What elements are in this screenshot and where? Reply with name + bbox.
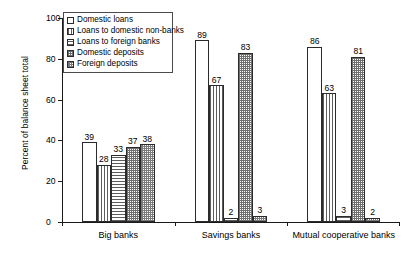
bar: 83 — [238, 53, 253, 222]
bar: 63 — [322, 93, 337, 222]
legend-swatch-icon — [67, 39, 74, 46]
bar-value-label: 33 — [114, 144, 124, 154]
bar: 3 — [336, 216, 351, 222]
bar: 37 — [126, 147, 141, 222]
bar-value-label: 28 — [99, 154, 109, 164]
legend-item-label: Foreign deposits — [77, 60, 138, 68]
bar: 89 — [195, 40, 210, 222]
x-axis-tick — [62, 222, 63, 226]
bar-value-label: 67 — [212, 75, 222, 85]
y-tick-mark — [58, 100, 62, 101]
x-axis-tick — [175, 222, 176, 226]
bar-value-label: 86 — [310, 36, 320, 46]
legend-item[interactable]: Domestic deposits — [67, 48, 169, 59]
bar: 81 — [351, 57, 366, 222]
y-tick-label: 40 — [46, 135, 54, 145]
legend-item[interactable]: Loans to domestic non-banks — [67, 26, 169, 37]
bar-value-label: 89 — [197, 30, 207, 40]
y-tick-label: 20 — [46, 176, 54, 186]
y-axis-title: Percent of balance sheet total — [20, 13, 30, 213]
y-tick-label: 100 — [46, 13, 54, 23]
bar-chart: Percent of balance sheet total 020406080… — [0, 0, 420, 259]
y-tick-label: 60 — [46, 95, 54, 105]
legend-swatch-icon — [67, 50, 74, 57]
legend-swatch-icon — [67, 61, 74, 68]
bar-value-label: 3 — [258, 205, 263, 215]
y-tick-mark — [58, 181, 62, 182]
legend-item-label: Loans to foreign banks — [77, 38, 160, 46]
legend-item[interactable]: Loans to foreign banks — [67, 37, 169, 48]
bar: 86 — [307, 47, 322, 222]
bar-value-label: 83 — [241, 42, 251, 52]
x-axis-line — [62, 222, 400, 223]
y-tick-mark — [58, 59, 62, 60]
y-tick-label: 0 — [46, 217, 54, 227]
legend-item-label: Domestic deposits — [77, 49, 144, 57]
legend-swatch-icon — [67, 28, 74, 35]
bar: 2 — [365, 218, 380, 222]
bar: 2 — [224, 218, 239, 222]
x-group-label: Mutual cooperative banks — [292, 230, 395, 240]
x-group-label: Big banks — [99, 230, 139, 240]
bar-value-label: 63 — [324, 83, 334, 93]
legend-item-label: Domestic loans — [77, 16, 133, 24]
bar-value-label: 2 — [370, 207, 375, 217]
bar: 3 — [253, 216, 268, 222]
legend: Domestic loansLoans to domestic non-bank… — [63, 12, 173, 73]
legend-item[interactable]: Foreign deposits — [67, 59, 169, 70]
x-group-label: Savings banks — [202, 230, 261, 240]
bar-value-label: 39 — [85, 132, 95, 142]
y-tick-mark — [58, 140, 62, 141]
y-tick-label: 80 — [46, 54, 54, 64]
legend-swatch-icon — [67, 17, 74, 24]
x-axis-tick — [287, 222, 288, 226]
bar: 38 — [140, 144, 155, 222]
bar: 67 — [209, 85, 224, 222]
bar: 39 — [82, 142, 97, 222]
x-axis-tick — [399, 222, 400, 226]
bar-value-label: 38 — [143, 134, 153, 144]
bar: 33 — [111, 155, 126, 222]
bar-value-label: 81 — [353, 46, 363, 56]
bar-value-label: 37 — [128, 136, 138, 146]
bar-value-label: 3 — [341, 205, 346, 215]
legend-item[interactable]: Domestic loans — [67, 15, 169, 26]
bar-value-label: 2 — [229, 207, 234, 217]
bar: 28 — [97, 165, 112, 222]
legend-item-label: Loans to domestic non-banks — [77, 27, 184, 35]
